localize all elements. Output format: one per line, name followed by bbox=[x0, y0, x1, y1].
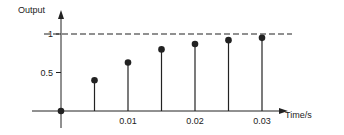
stem-marker bbox=[259, 35, 266, 42]
stems bbox=[58, 35, 266, 115]
y-axis-arrow-icon bbox=[58, 10, 64, 19]
stem-marker bbox=[158, 46, 165, 53]
stem-marker bbox=[91, 77, 98, 84]
x-tick-label: 0.03 bbox=[253, 116, 271, 126]
stem-chart: 0.510.010.020.03 Output Time/s bbox=[0, 0, 344, 135]
axes: 0.510.010.020.03 bbox=[32, 10, 288, 128]
labels: Output Time/s bbox=[18, 5, 312, 120]
stem-marker bbox=[225, 37, 232, 44]
y-tick-label: 0.5 bbox=[40, 68, 53, 78]
stem-marker bbox=[192, 41, 199, 48]
stem-marker bbox=[58, 108, 65, 115]
x-tick-label: 0.01 bbox=[119, 116, 137, 126]
x-tick-label: 0.02 bbox=[186, 116, 204, 126]
y-axis-label: Output bbox=[18, 5, 46, 15]
stem-marker bbox=[125, 59, 132, 66]
x-axis-label: Time/s bbox=[285, 110, 312, 120]
